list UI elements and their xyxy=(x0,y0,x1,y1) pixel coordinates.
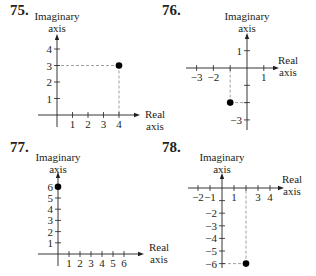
x-tick-label: 1 xyxy=(261,71,267,83)
x-axis-label: axis xyxy=(146,120,164,132)
y-tick-label: −4 xyxy=(205,232,217,244)
x-tick-label: −3 xyxy=(191,71,203,83)
y-axis-label: axis xyxy=(49,163,67,175)
y-tick-label: −2 xyxy=(205,207,217,219)
y-axis-label: Imaginary xyxy=(35,151,81,163)
x-tick-label: −2 xyxy=(208,71,220,83)
x-tick-label: 2 xyxy=(77,257,83,269)
y-tick-label: 6 xyxy=(48,181,54,193)
y-tick-label: −3 xyxy=(230,114,242,126)
x-tick-label: 4 xyxy=(267,191,273,203)
x-tick-label: 1 xyxy=(66,257,72,269)
x-axis-label: axis xyxy=(279,66,297,78)
arrow-right-icon xyxy=(138,252,144,256)
x-tick-label: −1 xyxy=(204,191,216,203)
y-tick-label: 2 xyxy=(47,76,53,88)
x-tick-label: 4 xyxy=(116,118,122,130)
x-tick-label: 1 xyxy=(70,118,76,130)
x-axis-label: Real xyxy=(282,173,302,185)
y-tick-label: 5 xyxy=(48,192,54,204)
x-tick-label: 6 xyxy=(121,257,127,269)
plot-77: 123456123456ImaginaryaxisRealaxis xyxy=(35,151,169,269)
x-tick-label: 3 xyxy=(255,191,261,203)
x-axis-label: Real xyxy=(149,241,169,253)
y-tick-label: 4 xyxy=(48,203,54,215)
x-tick-label: 4 xyxy=(99,257,105,269)
x-tick-label: 2 xyxy=(85,118,91,130)
y-tick-label: −5 xyxy=(205,245,217,257)
y-axis-label: axis xyxy=(238,22,256,34)
y-axis-label: axis xyxy=(48,22,66,34)
y-tick-label: 1 xyxy=(48,237,54,249)
x-tick-label: 3 xyxy=(88,257,94,269)
data-point xyxy=(227,99,234,106)
y-axis-label: axis xyxy=(213,163,231,175)
x-axis-label: Real xyxy=(145,108,165,120)
x-axis-label: axis xyxy=(150,253,168,265)
y-axis-label: Imaginary xyxy=(199,151,245,163)
data-point xyxy=(243,260,250,267)
y-tick-label: 4 xyxy=(47,43,53,55)
y-tick-label: 1 xyxy=(47,93,53,105)
y-tick-label: 1 xyxy=(237,45,243,57)
x-tick-label: 3 xyxy=(101,118,107,130)
x-axis-label: Real xyxy=(278,54,298,66)
y-tick-label: 2 xyxy=(48,226,54,238)
y-tick-label: −6 xyxy=(205,258,217,270)
plot-78: −2−1134−2−3−4−5−6ImaginaryaxisRealaxis xyxy=(188,151,302,270)
arrow-right-icon xyxy=(134,113,140,117)
complex-plane-plots: 12341234ImaginaryaxisRealaxis−3−211−3Ima… xyxy=(0,0,316,276)
data-point xyxy=(116,62,123,69)
x-axis-label: axis xyxy=(283,185,301,197)
y-axis-label: Imaginary xyxy=(34,10,80,22)
data-point xyxy=(55,184,62,191)
x-tick-label: 5 xyxy=(110,257,116,269)
plot-76: −3−211−3ImaginaryaxisRealaxis xyxy=(186,10,298,130)
y-axis-label: Imaginary xyxy=(224,10,270,22)
x-tick-label: 1 xyxy=(231,191,237,203)
y-tick-label: −3 xyxy=(205,220,217,232)
plot-75: 12341234ImaginaryaxisRealaxis xyxy=(34,10,165,132)
x-tick-label: −2 xyxy=(192,191,204,203)
y-tick-label: 3 xyxy=(48,214,54,226)
arrow-up-icon xyxy=(55,34,59,40)
y-tick-label: 3 xyxy=(47,60,53,72)
